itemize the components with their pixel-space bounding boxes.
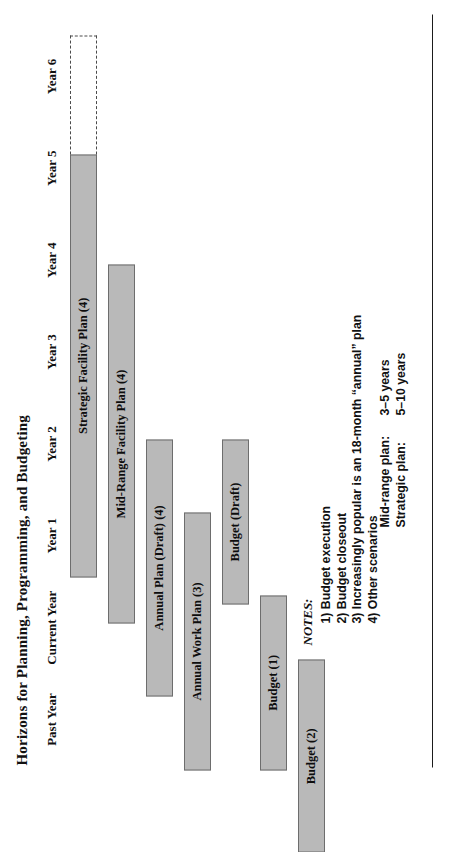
note-item: 1) Budget execution bbox=[319, 215, 335, 623]
bottom-rule-divider bbox=[432, 14, 433, 767]
horizon-value: 3–5 years bbox=[378, 359, 394, 415]
axis-tick-year-3: Year 3 bbox=[44, 334, 60, 370]
horizon-definition-row: Strategic plan:5–10 years bbox=[394, 352, 410, 527]
axis-tick-past-year: Past Year bbox=[44, 693, 60, 746]
gantt-bar-annual-work-plan-3: Annual Work Plan (3) bbox=[184, 512, 211, 769]
notes-list: 1) Budget execution2) Budget closeout3) … bbox=[319, 215, 381, 645]
gantt-bar-label: Budget (1) bbox=[266, 654, 281, 710]
axis-tick-year-4: Year 4 bbox=[44, 242, 60, 278]
gantt-bar-mid-range-facility-plan-4: Mid-Range Facility Plan (4) bbox=[108, 264, 135, 622]
axis-tick-current-year: Current Year bbox=[44, 590, 60, 664]
axis-tick-year-6: Year 6 bbox=[44, 58, 60, 94]
gantt-bar-budget-1: Budget (1) bbox=[260, 595, 287, 770]
note-item: 3) Increasingly popular is an 18-month “… bbox=[350, 215, 366, 623]
notes-block: NOTES: 1) Budget execution2) Budget clos… bbox=[300, 215, 381, 645]
gantt-bar-label: Strategic Facility Plan (4) bbox=[76, 297, 91, 433]
gantt-bar-budget-2: Budget (2) bbox=[298, 659, 325, 852]
gantt-bar-label: Budget (Draft) bbox=[228, 482, 243, 561]
timeline-axis: Past YearCurrent YearYear 1Year 2Year 3Y… bbox=[44, 30, 66, 765]
horizon-label: Mid-range plan: bbox=[378, 415, 394, 527]
gantt-bar-label: Annual Plan (Draft) (4) bbox=[152, 505, 167, 630]
axis-tick-year-2: Year 2 bbox=[44, 426, 60, 462]
gantt-bar-strategic-facility-plan-4: Strategic Facility Plan (4) bbox=[70, 154, 97, 577]
gantt-bar-label: Budget (2) bbox=[304, 728, 319, 784]
horizon-definitions: Mid-range plan:3–5 yearsStrategic plan:5… bbox=[378, 352, 409, 527]
horizon-label: Strategic plan: bbox=[394, 415, 410, 527]
axis-tick-year-5: Year 5 bbox=[44, 150, 60, 186]
gantt-bar-annual-plan-draft-4: Annual Plan (Draft) (4) bbox=[146, 439, 173, 696]
axis-tick-year-1: Year 1 bbox=[44, 518, 60, 554]
gantt-bar-label: Mid-Range Facility Plan (4) bbox=[114, 369, 129, 518]
page-title: Horizons for Planning, Programming, and … bbox=[14, 414, 31, 765]
gantt-bar-extension-dashed bbox=[70, 35, 97, 154]
gantt-bar-budget-draft: Budget (Draft) bbox=[222, 439, 249, 604]
horizon-value: 5–10 years bbox=[394, 352, 410, 415]
notes-heading: NOTES: bbox=[300, 215, 316, 645]
gantt-bar-label: Annual Work Plan (3) bbox=[190, 582, 205, 700]
horizon-definition-row: Mid-range plan:3–5 years bbox=[378, 352, 394, 527]
note-item: 2) Budget closeout bbox=[335, 215, 351, 623]
